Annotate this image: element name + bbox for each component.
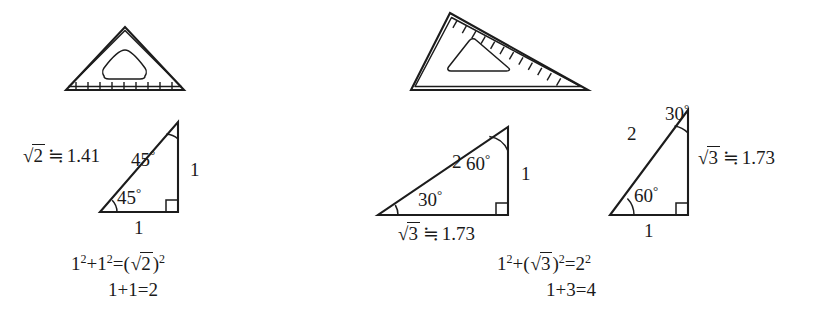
sqrt-glyph-3: √3 [697, 146, 720, 167]
middle-triangle-hypotenuse-label: 2 [452, 152, 462, 171]
eq-equals: = [565, 253, 576, 274]
left-triangle-angle-bottom-left: 45° [117, 188, 141, 207]
degree-sign: ° [150, 147, 155, 162]
approx-value: 1.41 [67, 145, 100, 166]
angle-bottom-left-value: 45 [117, 187, 136, 208]
right-set-square [411, 13, 588, 90]
angle-top-value: 30 [665, 103, 684, 124]
approx-symbol: ≒ [420, 223, 442, 244]
degree-sign: ° [653, 183, 658, 198]
radicand-value: 3 [540, 252, 553, 273]
middle-triangle-angle-bottom-left: 30° [418, 190, 442, 209]
sqrt-glyph-3: √3 [530, 252, 553, 273]
middle-triangle-right-side-label: 1 [521, 164, 531, 183]
middle-triangle-base-label: √3≒1.73 [397, 222, 475, 243]
degree-sign: ° [684, 101, 689, 116]
degree-sign: ° [437, 187, 442, 202]
left-triangle-hypotenuse-label: √2≒1.41 [22, 144, 100, 165]
radicand-value: 3 [707, 146, 720, 167]
tall-triangle-right-side-label: √3≒1.73 [697, 146, 775, 167]
approx-value: 1.73 [442, 223, 475, 244]
left-triangle-angle-top: 45° [131, 150, 155, 169]
eq-plus: + [87, 253, 98, 274]
right-equation-line-1: 12+(√3)2=22 [497, 252, 591, 273]
approx-value: 1.73 [742, 147, 775, 168]
approx-symbol: ≒ [720, 147, 742, 168]
left-equation-line-2: 1+1=2 [108, 280, 158, 299]
left-triangle-bottom-side-label: 1 [134, 218, 144, 237]
eq-term2: 1 [97, 253, 107, 274]
right-equation-line-2: 1+3=4 [546, 280, 596, 299]
radicand-value: 2 [140, 252, 153, 273]
left-triangle-right-side-label: 1 [190, 160, 200, 179]
sqrt-glyph-2: √2 [22, 144, 45, 165]
tall-triangle-angle-bottom-left: 60° [634, 186, 658, 205]
eq-result-exponent: 2 [159, 252, 165, 266]
eq-term1: 1 [71, 253, 81, 274]
eq-term1: 1 [497, 253, 507, 274]
degree-sign: ° [136, 185, 141, 200]
eq-result-exponent: 2 [585, 252, 591, 266]
figure-canvas: √2≒1.41 45° 45° 1 1 12+12=(√2)2 1+1=2 2 … [0, 0, 821, 314]
angle-top-value: 45 [131, 149, 150, 170]
degree-sign: ° [485, 151, 490, 166]
left-equation-line-1: 12+12=(√2)2 [71, 252, 165, 273]
middle-triangle-angle-top-right: 60° [466, 154, 490, 173]
radicand-value: 3 [407, 222, 420, 243]
tall-triangle-hypotenuse-label: 2 [627, 124, 637, 143]
right-set-square-ticks [453, 21, 561, 86]
eq-result: 2 [576, 253, 586, 274]
radicand-value: 2 [32, 144, 45, 165]
eq-plus: + [513, 253, 524, 274]
left-set-square [66, 27, 184, 90]
sqrt-glyph-2: √2 [130, 252, 153, 273]
angle-top-right-value: 60 [466, 153, 485, 174]
tall-triangle-base-label: 1 [644, 221, 654, 240]
angle-bottom-left-value: 30 [418, 189, 437, 210]
tall-triangle-angle-top: 30° [665, 104, 689, 123]
angle-bottom-left-value: 60 [634, 185, 653, 206]
eq-equals: = [113, 253, 124, 274]
sqrt-glyph-3: √3 [397, 222, 420, 243]
approx-symbol: ≒ [45, 145, 67, 166]
